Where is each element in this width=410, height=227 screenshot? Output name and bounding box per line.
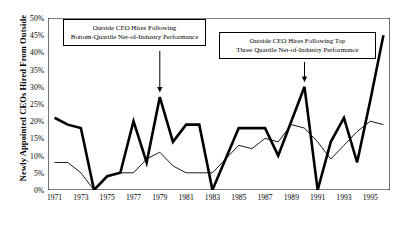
- x-tick-label: 1971: [47, 193, 62, 202]
- y-tick-label: 40%: [30, 48, 44, 57]
- y-tick-label: 20%: [30, 117, 44, 126]
- x-tick-label: 1983: [205, 193, 220, 202]
- data-line-thin: [55, 121, 384, 190]
- y-tick-label: 35%: [30, 65, 44, 74]
- x-axis-tick-labels: 1971197319751977197919811983198519871989…: [48, 193, 390, 209]
- annotation-box-bottom-quartile: Outside CEO Hires Following Bottom-Quart…: [63, 19, 206, 46]
- x-tick-label: 1985: [231, 193, 246, 202]
- chart-container: Newly Appointed CEOs Hired From Outside …: [0, 0, 410, 227]
- x-tick-label: 1975: [100, 193, 115, 202]
- annotation-line: Outside CEO Hires Following Top: [225, 36, 370, 45]
- y-tick-label: 50%: [30, 14, 44, 23]
- annotation-arrow-head: [302, 77, 307, 83]
- y-axis-tick-labels: 0%5%10%15%20%25%30%35%40%45%50%: [0, 18, 44, 190]
- x-tick-label: 1991: [310, 193, 325, 202]
- y-tick-label: 15%: [30, 134, 44, 143]
- annotation-line: Three Quartile Net-of-Industry Performan…: [225, 45, 370, 54]
- annotation-arrow-head: [157, 87, 162, 93]
- x-tick-label: 1977: [126, 193, 141, 202]
- annotation-line: Bottom-Quartile Net-of-Industry Performa…: [69, 32, 200, 41]
- annotation-box-top-three-quartile: Outside CEO Hires Following Top Three Qu…: [219, 32, 376, 59]
- x-tick-label: 1981: [179, 193, 194, 202]
- x-tick-label: 1993: [336, 193, 351, 202]
- x-tick-label: 1979: [152, 193, 167, 202]
- y-tick-label: 45%: [30, 31, 44, 40]
- x-tick-label: 1973: [73, 193, 88, 202]
- y-tick-label: 25%: [30, 100, 44, 109]
- x-tick-label: 1987: [257, 193, 272, 202]
- x-tick-label: 1995: [363, 193, 378, 202]
- y-tick-label: 5%: [34, 168, 44, 177]
- x-tick-label: 1989: [284, 193, 299, 202]
- y-tick-label: 30%: [30, 82, 44, 91]
- y-tick-label: 10%: [30, 151, 44, 160]
- annotation-line: Outside CEO Hires Following: [69, 23, 200, 32]
- y-tick-label: 0%: [34, 186, 44, 195]
